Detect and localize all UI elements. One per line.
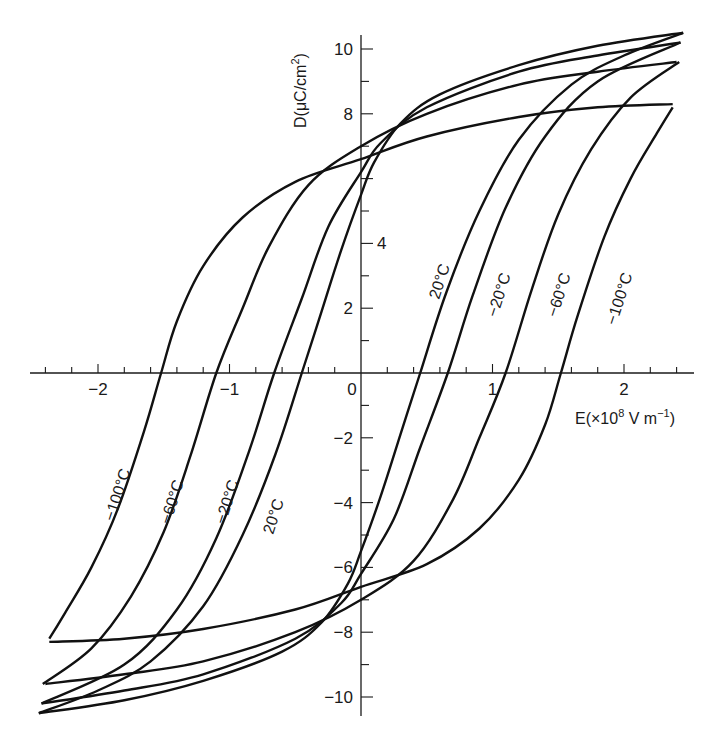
y-tick-label: 2 bbox=[344, 299, 353, 318]
curve-label-minus100c-upper: −100°C bbox=[603, 270, 636, 327]
axes bbox=[30, 35, 694, 716]
y-tick-label: 8 bbox=[344, 105, 353, 124]
x-tick-label: −2 bbox=[88, 380, 107, 399]
x-axis-title: E(×108 V m−1) bbox=[575, 407, 675, 427]
y-tick-label: −10 bbox=[324, 688, 353, 707]
curve-label-20c-upper: 20°C bbox=[426, 262, 453, 301]
x-tick-label: 2 bbox=[619, 380, 628, 399]
y-tick-label: −8 bbox=[334, 623, 353, 642]
x-tick-label: 1 bbox=[488, 380, 497, 399]
y-tick-label: −2 bbox=[334, 429, 353, 448]
y-tick-label: −6 bbox=[334, 558, 353, 577]
y-tick-label: 10 bbox=[334, 40, 353, 59]
curve-label-minus100c-lower: −100°C bbox=[101, 466, 134, 523]
y-tick-label: −4 bbox=[334, 494, 353, 513]
curve-label-20c-lower: 20°C bbox=[260, 497, 287, 536]
curve-label-minus20c-lower: −20°C bbox=[212, 478, 242, 526]
curve-label-minus60c-upper: −60°C bbox=[544, 271, 574, 319]
x-tick-label: −1 bbox=[220, 380, 239, 399]
y-tick-label: 4 bbox=[377, 234, 386, 253]
hysteresis-chart: −2−101224810−2−4−6−8−10 D(μC/cm2) E(×108… bbox=[0, 0, 715, 744]
curve-label-minus20c-upper: −20°C bbox=[484, 271, 514, 319]
curve-label-minus60c-lower: −60°C bbox=[157, 478, 187, 526]
x-tick-label: 0 bbox=[347, 380, 356, 399]
y-axis-title: D(μC/cm2) bbox=[289, 53, 309, 128]
